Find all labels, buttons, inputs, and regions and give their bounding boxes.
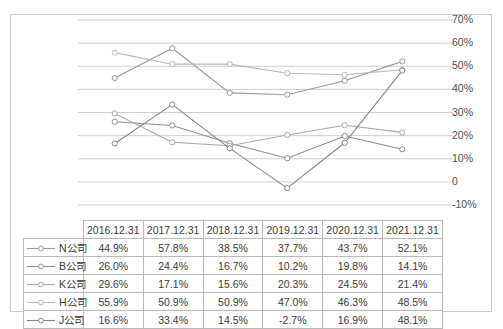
table-cell-value: 17.1% bbox=[143, 275, 203, 293]
table-head: 2016.12.312017.12.312018.12.312019.12.31… bbox=[24, 221, 443, 239]
data-point[interactable] bbox=[170, 140, 175, 145]
legend-cell[interactable]: N公司 bbox=[24, 239, 84, 257]
y-axis-tick-label: 0 bbox=[452, 176, 458, 187]
data-point[interactable] bbox=[112, 75, 117, 80]
data-point[interactable] bbox=[170, 62, 175, 67]
series-line bbox=[115, 71, 403, 188]
table-cell-value: 33.4% bbox=[143, 311, 203, 329]
data-point[interactable] bbox=[400, 147, 405, 152]
series-3 bbox=[112, 111, 405, 149]
table-cell-value: -2.7% bbox=[263, 311, 323, 329]
y-axis-tick-label: 60% bbox=[452, 37, 473, 48]
table-row: H公司55.9%50.9%50.9%47.0%46.3%48.5% bbox=[24, 293, 443, 311]
y-axis-tick-label: 20% bbox=[452, 130, 473, 141]
table-cell-value: 44.9% bbox=[83, 239, 143, 257]
chart-frame: 70%60%50%40%30%20%10%0-10% 2016.12.31201… bbox=[10, 14, 492, 312]
legend-marker-icon bbox=[26, 261, 56, 270]
data-point[interactable] bbox=[112, 119, 117, 124]
series-line bbox=[115, 48, 403, 94]
y-axis-tick-label: 50% bbox=[452, 60, 473, 71]
data-point[interactable] bbox=[285, 186, 290, 191]
data-point[interactable] bbox=[285, 92, 290, 97]
y-axis-tick-label: 40% bbox=[452, 83, 473, 94]
table-cell-value: 57.8% bbox=[143, 239, 203, 257]
table-row: K公司29.6%17.1%15.6%20.3%24.5%21.4% bbox=[24, 275, 443, 293]
data-point[interactable] bbox=[170, 123, 175, 128]
data-point[interactable] bbox=[342, 133, 347, 138]
table-cell-value: 50.9% bbox=[143, 293, 203, 311]
table-row: B公司26.0%24.4%16.7%10.2%19.8%14.1% bbox=[24, 257, 443, 275]
table-cell-value: 15.6% bbox=[203, 275, 263, 293]
legend-marker-icon bbox=[26, 315, 56, 324]
table-cell-value: 14.5% bbox=[203, 311, 263, 329]
data-point[interactable] bbox=[342, 72, 347, 77]
table-cell-value: 48.1% bbox=[383, 311, 443, 329]
table-cell-value: 55.9% bbox=[83, 293, 143, 311]
legend-cell[interactable]: K公司 bbox=[24, 275, 84, 293]
table-row: J公司16.6%33.4%14.5%-2.7%16.9%48.1% bbox=[24, 311, 443, 329]
legend-series-name: K公司 bbox=[59, 276, 86, 291]
series-value-table: 2016.12.312017.12.312018.12.312019.12.31… bbox=[23, 220, 443, 329]
table-cell-value: 19.8% bbox=[323, 257, 383, 275]
legend-cell[interactable]: B公司 bbox=[24, 257, 84, 275]
data-point[interactable] bbox=[112, 111, 117, 116]
y-axis-tick-label: 70% bbox=[452, 14, 473, 25]
table-cell-value: 46.3% bbox=[323, 293, 383, 311]
table-cell-value: 24.5% bbox=[323, 275, 383, 293]
y-axis-tick-label: 30% bbox=[452, 107, 473, 118]
series-5 bbox=[112, 68, 405, 191]
chart-plot-area bbox=[86, 20, 431, 205]
table-column-header: 2019.12.31 bbox=[263, 221, 323, 239]
data-point[interactable] bbox=[285, 156, 290, 161]
table-cell-value: 16.6% bbox=[83, 311, 143, 329]
legend-cell[interactable]: J公司 bbox=[24, 311, 84, 329]
table-body: N公司44.9%57.8%38.5%37.7%43.7%52.1%B公司26.0… bbox=[24, 239, 443, 329]
table-cell-value: 29.6% bbox=[83, 275, 143, 293]
table-row: N公司44.9%57.8%38.5%37.7%43.7%52.1% bbox=[24, 239, 443, 257]
table-cell-value: 16.9% bbox=[323, 311, 383, 329]
data-point[interactable] bbox=[400, 130, 405, 135]
data-point[interactable] bbox=[342, 140, 347, 145]
table-column-header: 2020.12.31 bbox=[323, 221, 383, 239]
series-4 bbox=[112, 50, 405, 77]
table-column-header: 2018.12.31 bbox=[203, 221, 263, 239]
data-point[interactable] bbox=[285, 132, 290, 137]
data-point[interactable] bbox=[227, 90, 232, 95]
y-axis-tick-label: -10% bbox=[452, 199, 477, 210]
chart-data-table: 2016.12.312017.12.312018.12.312019.12.31… bbox=[23, 220, 443, 329]
line-chart-svg bbox=[86, 20, 431, 205]
table-cell-value: 14.1% bbox=[383, 257, 443, 275]
table-cell-value: 24.4% bbox=[143, 257, 203, 275]
legend-marker-icon bbox=[26, 279, 56, 288]
data-point[interactable] bbox=[227, 62, 232, 67]
legend-series-name: H公司 bbox=[59, 294, 87, 309]
table-column-header: 2016.12.31 bbox=[83, 221, 143, 239]
table-cell-value: 43.7% bbox=[323, 239, 383, 257]
table-cell-value: 10.2% bbox=[263, 257, 323, 275]
table-cell-value: 52.1% bbox=[383, 239, 443, 257]
table-cell-value: 16.7% bbox=[203, 257, 263, 275]
legend-marker-icon bbox=[26, 297, 56, 306]
table-header-row: 2016.12.312017.12.312018.12.312019.12.31… bbox=[24, 221, 443, 239]
data-point[interactable] bbox=[342, 123, 347, 128]
y-axis-tick-label: 10% bbox=[452, 153, 473, 164]
data-point[interactable] bbox=[170, 46, 175, 51]
data-point[interactable] bbox=[400, 68, 405, 73]
data-point[interactable] bbox=[342, 78, 347, 83]
data-point[interactable] bbox=[227, 146, 232, 151]
data-point[interactable] bbox=[400, 59, 405, 64]
table-cell-value: 38.5% bbox=[203, 239, 263, 257]
table-cell-value: 48.5% bbox=[383, 293, 443, 311]
chart-series-layer bbox=[112, 46, 405, 191]
data-point[interactable] bbox=[285, 71, 290, 76]
legend-series-name: B公司 bbox=[59, 258, 86, 273]
legend-cell[interactable]: H公司 bbox=[24, 293, 84, 311]
data-point[interactable] bbox=[112, 141, 117, 146]
data-point[interactable] bbox=[112, 50, 117, 55]
data-point[interactable] bbox=[170, 102, 175, 107]
table-cell-value: 50.9% bbox=[203, 293, 263, 311]
y-axis: 70%60%50%40%30%20%10%0-10% bbox=[443, 15, 491, 215]
chart-gridlines bbox=[78, 20, 453, 205]
table-cell-value: 47.0% bbox=[263, 293, 323, 311]
legend-series-name: N公司 bbox=[59, 240, 87, 255]
